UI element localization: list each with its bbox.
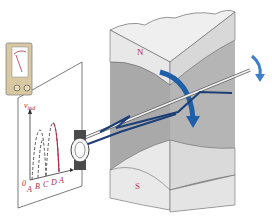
x-tick-A2: A (58, 176, 64, 185)
magnet-assembly: N S (110, 10, 235, 212)
x-tick-C: C (43, 180, 49, 189)
x-tick-D: D (50, 178, 57, 187)
origin-label: 0 (22, 179, 26, 188)
dc-generator-diagram: N S vind 0 A B C D A (0, 0, 272, 218)
south-pole-label: S (135, 181, 140, 191)
shaft-rotation-arrow (252, 56, 260, 76)
x-tick-B: B (35, 182, 40, 191)
x-tick-A1: A (26, 185, 32, 194)
meter-terminal-left (14, 85, 20, 91)
north-pole-label: N (137, 47, 144, 57)
voltmeter (6, 43, 32, 95)
meter-terminal-right (24, 85, 30, 91)
